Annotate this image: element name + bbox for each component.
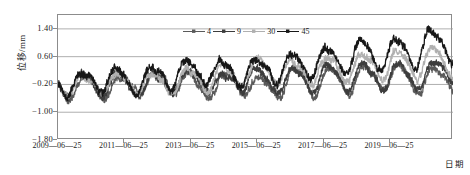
x-tick-label: 2017—06—25 [298, 142, 347, 150]
legend-marker-icon [243, 27, 265, 36]
y-tick-label: −1.00 [7, 107, 53, 116]
x-tick-mark [190, 139, 191, 143]
y-tick-label: −0.20 [7, 79, 53, 88]
legend-marker-icon [277, 27, 299, 36]
chart-legend: 493045 [183, 26, 312, 37]
legend-item-30[interactable]: 30 [243, 27, 277, 36]
legend-label: 30 [265, 28, 277, 36]
legend-label: 9 [235, 28, 243, 36]
x-tick-label: 2009—06—25 [33, 142, 82, 150]
x-tick-label: 2015—06—25 [232, 142, 281, 150]
y-tick-label: 0.60 [7, 52, 53, 61]
y-tick-mark [53, 56, 57, 57]
y-tick-mark [53, 83, 57, 84]
displacement-time-series-chart: 位移/mm 1.400.60−0.20−1.00−1.80 493045 200… [0, 0, 470, 175]
legend-item-45[interactable]: 45 [277, 27, 311, 36]
legend-item-4[interactable]: 4 [183, 27, 213, 36]
x-tick-mark [256, 139, 257, 143]
x-tick-mark [389, 139, 390, 143]
y-tick-mark [53, 28, 57, 29]
x-tick-label: 2019—06—25 [365, 142, 414, 150]
y-tick-mark [53, 111, 57, 112]
x-axis-title: 日期 [445, 157, 464, 169]
legend-item-9[interactable]: 9 [213, 27, 243, 36]
x-tick-mark [323, 139, 324, 143]
x-tick-mark [123, 139, 124, 143]
legend-label: 45 [299, 28, 311, 36]
legend-marker-icon [213, 27, 235, 36]
x-tick-label: 2011—06—25 [99, 142, 148, 150]
x-tick-label: 2013—06—25 [165, 142, 214, 150]
legend-marker-icon [183, 27, 205, 36]
y-tick-label: 1.40 [7, 24, 53, 33]
series-line-30 [58, 45, 453, 98]
y-tick-mark [53, 139, 57, 140]
legend-label: 4 [205, 28, 213, 36]
